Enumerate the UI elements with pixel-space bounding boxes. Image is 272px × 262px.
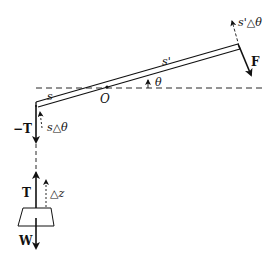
label-t: T xyxy=(22,186,31,200)
lever-bar xyxy=(36,44,240,107)
label-neg-t: −T xyxy=(13,122,32,136)
label-f: F xyxy=(251,55,260,69)
label-s-dtheta: s△θ xyxy=(47,121,68,134)
force-f-arrow xyxy=(239,46,251,75)
s-dtheta-arrow xyxy=(40,112,42,128)
label-s: s xyxy=(47,90,53,103)
lever-diagram: s s' O θ F −T s△θ s'△θ T △z W xyxy=(0,0,272,262)
label-dz: △z xyxy=(50,187,64,200)
label-w: W xyxy=(18,234,33,248)
pivot-point xyxy=(105,85,108,88)
label-pivot-o: O xyxy=(100,92,110,106)
label-theta: θ xyxy=(155,76,162,89)
label-sp-dtheta: s'△θ xyxy=(238,16,262,29)
label-s-prime: s' xyxy=(162,55,171,68)
